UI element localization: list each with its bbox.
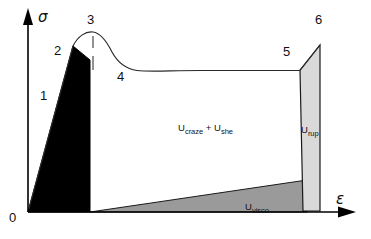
origin-label: 0 (9, 210, 16, 225)
sigma-axis-label: σ (38, 8, 48, 26)
visco-subscript: visco (252, 206, 269, 215)
point-label-1: 1 (40, 88, 47, 103)
region-label-craze-shear: Ucraze + Ushe (178, 122, 233, 136)
stress-strain-diagram: σ ε 0 1 2 3 4 5 6 Ucraze + Ushe Urup Uvi… (0, 0, 371, 239)
point-label-2: 2 (54, 43, 61, 58)
shear-subscript: she (221, 127, 233, 136)
point-label-5: 5 (283, 44, 290, 59)
point-label-3: 3 (87, 12, 94, 27)
y-axis-arrowhead (23, 8, 33, 25)
region-viscous (90, 180, 307, 212)
point-label-6: 6 (315, 12, 322, 27)
label-joiner: + (203, 122, 214, 133)
rup-subscript: rup (308, 129, 319, 138)
craze-subscript: craze (185, 127, 203, 136)
region-elastic (28, 46, 90, 212)
diagram-canvas: σ ε 0 1 2 3 4 5 6 Ucraze + Ushe Urup Uvi… (0, 0, 371, 239)
x-axis-arrowhead (338, 207, 356, 218)
epsilon-axis-label: ε (336, 190, 344, 208)
point-label-4: 4 (117, 69, 124, 84)
